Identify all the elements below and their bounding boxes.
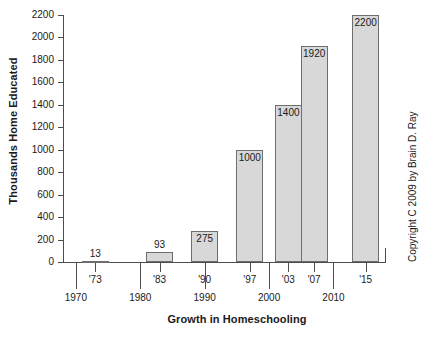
x-decade-label: 1980 xyxy=(110,292,170,303)
x-year-tick xyxy=(160,263,161,272)
y-tick-mark xyxy=(58,262,64,263)
x-decade-tick xyxy=(205,263,206,289)
bar-value-label: 1920 xyxy=(293,48,336,59)
x-axis-title: Growth in Homeschooling xyxy=(87,313,387,325)
x-decade-tick xyxy=(333,263,334,289)
x-year-tick xyxy=(314,263,315,272)
bar xyxy=(301,46,328,262)
x-year-label: '15 xyxy=(346,274,386,285)
y-tick-label: 400 xyxy=(0,212,54,222)
plot-area: 13932751000140019202200 xyxy=(63,15,385,262)
y-tick-label: 1400 xyxy=(0,100,54,110)
x-year-tick xyxy=(95,263,96,272)
bar-value-label: 93 xyxy=(138,239,181,250)
x-decade-label: 2000 xyxy=(239,292,299,303)
bar-value-label: 2200 xyxy=(344,17,387,28)
x-decade-tick xyxy=(140,263,141,289)
bar xyxy=(146,252,173,262)
y-tick-label: 200 xyxy=(0,235,54,245)
y-tick-label: 0 xyxy=(0,257,54,267)
x-decade-tick xyxy=(269,263,270,289)
x-year-label: '83 xyxy=(140,274,180,285)
x-year-tick xyxy=(250,263,251,272)
x-axis-line xyxy=(63,262,385,263)
chart-figure: Thousands Home Educated 0200400600800100… xyxy=(0,0,435,341)
bar-value-label: 1000 xyxy=(228,152,271,163)
x-decade-tick xyxy=(76,263,77,289)
y-tick-label: 1600 xyxy=(0,77,54,87)
bar xyxy=(275,105,302,262)
x-decade-label: 1990 xyxy=(175,292,235,303)
y-tick-label: 1800 xyxy=(0,55,54,65)
x-year-tick xyxy=(288,263,289,272)
bar-value-label: 13 xyxy=(74,248,117,259)
y-tick-label: 2000 xyxy=(0,32,54,42)
bar xyxy=(236,150,263,262)
x-decade-label: 1970 xyxy=(46,292,106,303)
bar xyxy=(352,15,379,262)
x-year-label: '97 xyxy=(230,274,270,285)
x-year-label: '73 xyxy=(75,274,115,285)
right-bracket-line xyxy=(385,248,386,263)
y-tick-label: 1200 xyxy=(0,122,54,132)
y-tick-label: 2200 xyxy=(0,10,54,20)
y-tick-label: 800 xyxy=(0,167,54,177)
y-tick-label: 600 xyxy=(0,190,54,200)
y-tick-label: 1000 xyxy=(0,145,54,155)
x-year-label: '07 xyxy=(294,274,334,285)
x-year-tick xyxy=(366,263,367,272)
x-decade-label: 2010 xyxy=(303,292,363,303)
bar-value-label: 275 xyxy=(183,233,226,244)
copyright-note: Copyright C 2009 by Brain D. Ray xyxy=(404,22,420,262)
